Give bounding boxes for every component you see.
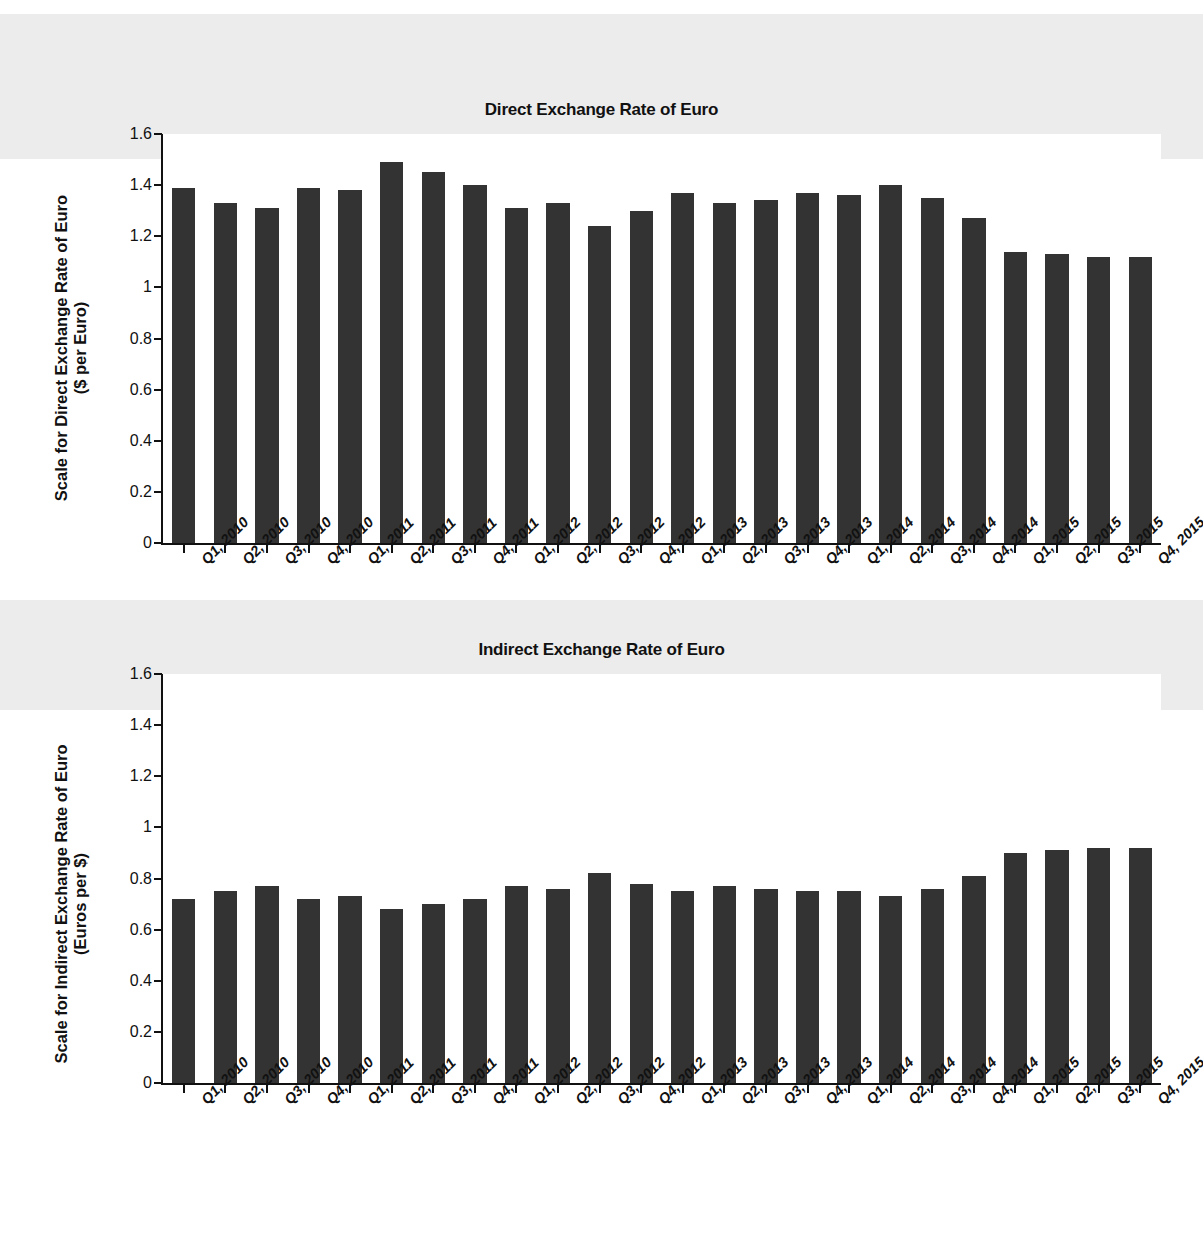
x-tick-labels-direct: Q1, 2010Q2, 2010Q3, 2010Q4, 2010Q1, 2011…: [163, 556, 1161, 646]
x-tick-mark: [266, 545, 268, 553]
x-tick-label: Q2, 2013: [738, 1096, 749, 1107]
y-tick-mark: [154, 878, 162, 880]
bar: [796, 193, 819, 543]
y-tick-mark: [154, 235, 162, 237]
bar: [671, 193, 694, 543]
x-tick-mark: [723, 1085, 725, 1093]
x-tick-mark: [474, 1085, 476, 1093]
bar: [297, 188, 320, 543]
x-tick-label: Q1, 2010: [198, 1096, 209, 1107]
y-tick-labels-direct: 00.20.40.60.811.21.41.6: [108, 134, 152, 543]
x-tick-mark: [557, 1085, 559, 1093]
x-tick-label: Q3, 2012: [614, 556, 625, 567]
x-tick-label: Q4, 2012: [655, 556, 666, 567]
x-tick-mark: [515, 545, 517, 553]
figure-indirect-exchange-rate: Indirect Exchange Rate of Euro Scale for…: [0, 640, 1203, 1240]
x-tick-mark: [1139, 545, 1141, 553]
y-tick-label: 1: [143, 278, 152, 296]
x-tick-mark: [640, 1085, 642, 1093]
x-tick-label: Q1, 2015: [1029, 556, 1040, 567]
y-tick-mark: [154, 929, 162, 931]
bar: [255, 208, 278, 543]
x-tick-label: Q3, 2012: [614, 1096, 625, 1107]
x-tick-label: Q2, 2015: [1071, 1096, 1082, 1107]
x-tick-mark: [931, 545, 933, 553]
x-tick-mark: [1014, 1085, 1016, 1093]
x-tick-label: Q2, 2014: [905, 1096, 916, 1107]
x-tick-label: Q3, 2010: [281, 1096, 292, 1107]
bar: [505, 208, 528, 543]
bar: [837, 891, 860, 1083]
x-tick-mark: [807, 1085, 809, 1093]
bar: [921, 198, 944, 543]
bar: [588, 226, 611, 543]
x-tick-label: Q1, 2013: [697, 556, 708, 567]
x-tick-label: Q4, 2014: [988, 556, 999, 567]
x-tick-mark: [765, 1085, 767, 1093]
y-tick-mark: [154, 286, 162, 288]
x-tick-mark: [848, 1085, 850, 1093]
y-tick-label: 1.4: [130, 176, 152, 194]
bar: [837, 195, 860, 543]
x-tick-label: Q2, 2013: [738, 556, 749, 567]
bar: [1087, 257, 1110, 543]
bar: [671, 891, 694, 1083]
y-tick-mark: [154, 389, 162, 391]
bar: [630, 211, 653, 543]
y-tick-label: 0.4: [130, 972, 152, 990]
x-tick-mark: [308, 545, 310, 553]
x-tick-label: Q4, 2014: [988, 1096, 999, 1107]
x-tick-label: Q2, 2011: [406, 1096, 417, 1107]
y-tick-label: 0.6: [130, 381, 152, 399]
bar: [879, 185, 902, 543]
x-tick-label: Q3, 2015: [1113, 556, 1124, 567]
bar: [921, 889, 944, 1083]
y-tick-label: 0: [143, 1074, 152, 1092]
x-tick-mark: [224, 545, 226, 553]
bar: [380, 909, 403, 1083]
y-tick-label: 1.2: [130, 227, 152, 245]
x-tick-mark: [474, 545, 476, 553]
x-tick-label: Q4, 2010: [323, 556, 334, 567]
x-tick-label: Q3, 2013: [780, 1096, 791, 1107]
x-tick-label: Q1, 2010: [198, 556, 209, 567]
x-tick-mark: [391, 545, 393, 553]
x-tick-mark: [1139, 1085, 1141, 1093]
bar: [505, 886, 528, 1083]
x-tick-label: Q1, 2014: [863, 1096, 874, 1107]
y-tick-mark: [154, 673, 162, 675]
y-tick-label: 1.6: [130, 665, 152, 683]
x-tick-mark: [266, 1085, 268, 1093]
chart-body-indirect: Scale for Indirect Exchange Rate of Euro…: [0, 674, 1203, 1174]
y-tick-labels-indirect: 00.20.40.60.811.21.41.6: [108, 674, 152, 1083]
y-tick-mark: [154, 440, 162, 442]
y-tick-label: 0.8: [130, 330, 152, 348]
x-tick-label: Q1, 2011: [364, 1096, 375, 1107]
bar: [255, 886, 278, 1083]
x-tick-mark: [515, 1085, 517, 1093]
bar: [713, 203, 736, 543]
x-tick-mark: [848, 545, 850, 553]
x-tick-mark: [349, 1085, 351, 1093]
bar: [1045, 850, 1068, 1083]
y-tick-mark: [154, 1031, 162, 1033]
x-tick-mark: [1056, 1085, 1058, 1093]
bar: [1045, 254, 1068, 543]
bar: [754, 889, 777, 1083]
x-tick-mark: [308, 1085, 310, 1093]
bar: [1129, 257, 1152, 543]
x-tick-mark: [765, 545, 767, 553]
x-tick-label: Q3, 2013: [780, 556, 791, 567]
figure-direct-exchange-rate: Direct Exchange Rate of Euro Scale for D…: [0, 100, 1203, 660]
bar: [1004, 252, 1027, 543]
y-tick-label: 1.4: [130, 716, 152, 734]
x-tick-labels-indirect: Q1, 2010Q2, 2010Q3, 2010Q4, 2010Q1, 2011…: [163, 1096, 1161, 1186]
x-tick-mark: [890, 545, 892, 553]
chart-body-direct: Scale for Direct Exchange Rate of Euro (…: [0, 134, 1203, 634]
y-tick-label: 1.2: [130, 767, 152, 785]
y-tick-mark: [154, 133, 162, 135]
y-tick-mark: [154, 724, 162, 726]
bar: [214, 891, 237, 1083]
x-tick-mark: [599, 1085, 601, 1093]
bar: [338, 896, 361, 1083]
